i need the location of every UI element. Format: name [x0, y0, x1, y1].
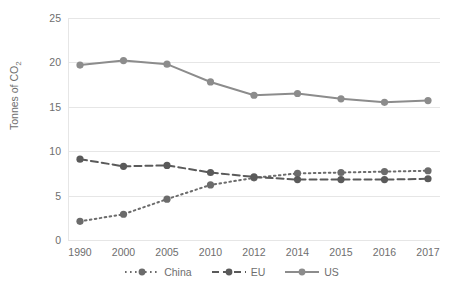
- plot-area: 0510152025 19902000200520102012201420152…: [68, 18, 440, 240]
- data-point-eu: [294, 176, 301, 183]
- legend-label: US: [324, 266, 339, 278]
- y-tick-label: 10: [49, 145, 61, 157]
- x-tick-label: 2014: [286, 246, 309, 258]
- y-tick-label: 5: [55, 190, 61, 202]
- data-point-eu: [76, 156, 83, 163]
- legend-label: China: [164, 266, 191, 278]
- co2-emissions-line-chart: Tonnes of CO2 0510152025 199020002005201…: [0, 0, 464, 292]
- x-tick-label: 2016: [373, 246, 396, 258]
- data-point-eu: [250, 173, 257, 180]
- x-tick-label: 2005: [155, 246, 178, 258]
- data-point-eu: [337, 176, 344, 183]
- legend-swatch-china-icon: [125, 266, 159, 278]
- data-point-eu: [424, 175, 431, 182]
- legend-swatch-eu-icon: [212, 266, 246, 278]
- series-lines: [68, 18, 440, 240]
- data-point-us: [294, 90, 301, 97]
- y-axis-label: Tonnes of CO2: [8, 61, 23, 130]
- data-point-china: [294, 170, 301, 177]
- y-tick-label: 20: [49, 56, 61, 68]
- y-axis-label-text: Tonnes of CO: [8, 66, 20, 130]
- data-point-eu: [381, 176, 388, 183]
- gridline: [68, 240, 440, 241]
- x-tick-label: 2000: [112, 246, 135, 258]
- legend-label: EU: [251, 266, 266, 278]
- x-tick-label: 2017: [416, 246, 439, 258]
- data-point-china: [424, 167, 431, 174]
- legend-item-eu[interactable]: EU: [212, 266, 266, 278]
- data-point-eu: [120, 163, 127, 170]
- data-point-us: [424, 97, 431, 104]
- chart-legend: ChinaEUUS: [0, 266, 464, 278]
- x-tick-label: 2010: [199, 246, 222, 258]
- x-tick-label: 2012: [242, 246, 265, 258]
- y-tick-label: 25: [49, 12, 61, 24]
- y-tick-label: 15: [49, 101, 61, 113]
- data-point-us: [120, 57, 127, 64]
- x-tick-label: 1990: [68, 246, 91, 258]
- legend-item-us[interactable]: US: [285, 266, 339, 278]
- data-point-china: [163, 196, 170, 203]
- legend-swatch-us-icon: [285, 266, 319, 278]
- data-point-us: [381, 99, 388, 106]
- data-point-china: [381, 168, 388, 175]
- data-point-china: [76, 218, 83, 225]
- data-point-us: [76, 61, 83, 68]
- x-tick-label: 2015: [329, 246, 352, 258]
- data-point-us: [250, 92, 257, 99]
- legend-item-china[interactable]: China: [125, 266, 191, 278]
- data-point-us: [163, 61, 170, 68]
- data-point-china: [207, 181, 214, 188]
- data-point-china: [337, 169, 344, 176]
- y-axis-label-subscript: 2: [14, 61, 23, 65]
- data-point-us: [337, 95, 344, 102]
- data-point-us: [207, 78, 214, 85]
- data-point-china: [120, 211, 127, 218]
- data-point-eu: [163, 162, 170, 169]
- y-tick-label: 0: [55, 234, 61, 246]
- data-point-eu: [207, 169, 214, 176]
